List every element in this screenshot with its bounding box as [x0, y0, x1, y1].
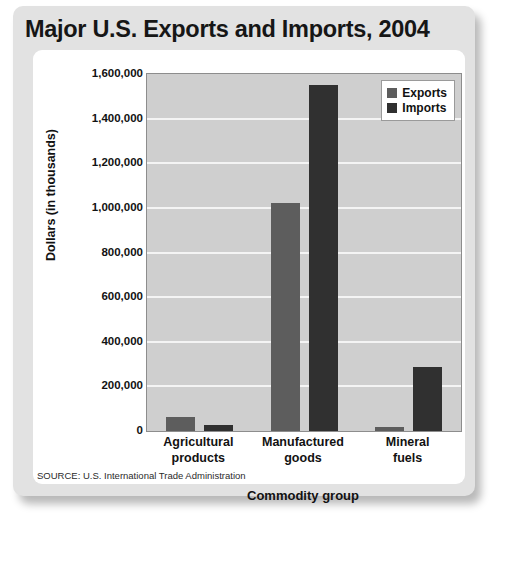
- bar-group: [375, 74, 442, 431]
- plot-area: Exports Imports: [146, 73, 462, 432]
- x-tick-label: Manufacturedgoods: [251, 435, 356, 466]
- y-tick-label: 600,000: [101, 290, 143, 302]
- y-tick-label: 1,600,000: [92, 67, 143, 79]
- y-tick-label: 1,400,000: [92, 112, 143, 124]
- legend-label-imports: Imports: [402, 101, 446, 115]
- legend-item-imports: Imports: [387, 101, 447, 115]
- y-tick-label: 1,200,000: [92, 156, 143, 168]
- bar-exports-0: [166, 417, 195, 431]
- x-tick-label: Mineralfuels: [355, 435, 460, 466]
- legend-label-exports: Exports: [402, 86, 447, 100]
- legend-item-exports: Exports: [387, 86, 447, 100]
- bar-exports-1: [271, 203, 300, 431]
- y-tick-label: 200,000: [101, 379, 143, 391]
- chart-title: Major U.S. Exports and Imports, 2004: [25, 16, 429, 43]
- legend-swatch-exports-icon: [387, 88, 397, 98]
- x-tick-label: Agriculturalproducts: [146, 435, 251, 466]
- y-tick-label: 0: [137, 424, 143, 436]
- y-axis-tick-labels: 0200,000400,000600,000800,0001,000,0001,…: [63, 73, 143, 430]
- x-axis-title: Commodity group: [146, 488, 460, 503]
- y-tick-label: 1,000,000: [92, 201, 143, 213]
- source-note: SOURCE: U.S. International Trade Adminis…: [37, 470, 246, 481]
- y-axis-title: Dollars (in thousands): [44, 85, 58, 305]
- bar-imports-1: [309, 85, 338, 431]
- bar-group: [166, 74, 233, 431]
- legend: Exports Imports: [381, 80, 455, 121]
- bar-imports-0: [204, 425, 233, 431]
- figure-card: Major U.S. Exports and Imports, 2004 Dol…: [13, 6, 475, 496]
- y-tick-label: 800,000: [101, 246, 143, 258]
- chart-panel: Dollars (in thousands) 0200,000400,00060…: [33, 50, 465, 484]
- legend-swatch-imports-icon: [387, 103, 397, 113]
- bar-group: [271, 74, 338, 431]
- y-tick-label: 400,000: [101, 335, 143, 347]
- bar-imports-2: [413, 367, 442, 431]
- bar-exports-2: [375, 427, 404, 431]
